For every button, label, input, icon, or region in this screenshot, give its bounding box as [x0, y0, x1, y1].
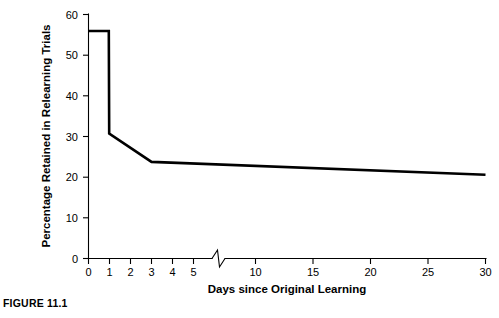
y-tick-label-40: 40 [66, 90, 78, 102]
x-axis-break-icon [212, 250, 225, 267]
x-tick-label-0: 0 [85, 266, 91, 278]
x-tick-label-25: 25 [422, 266, 434, 278]
x-axis-tick-labels: 0 1 2 3 4 5 10 15 20 25 30 [85, 266, 491, 278]
line-chart: 60 50 40 30 20 10 0 0 1 2 3 [0, 0, 499, 318]
figure-caption: FIGURE 11.1 [3, 297, 68, 309]
x-tick-label-3: 3 [148, 266, 154, 278]
y-tick-label-60: 60 [66, 9, 78, 21]
x-tick-label-20: 20 [364, 266, 376, 278]
x-tick-label-15: 15 [307, 266, 319, 278]
data-series-line [89, 31, 486, 175]
y-axis-tick-labels: 60 50 40 30 20 10 0 [66, 9, 78, 265]
figure-container: 60 50 40 30 20 10 0 0 1 2 3 [0, 0, 499, 318]
y-tick-label-30: 30 [66, 131, 78, 143]
y-tick-label-50: 50 [66, 49, 78, 61]
x-tick-label-4: 4 [169, 266, 175, 278]
x-tick-label-1: 1 [106, 266, 112, 278]
x-axis-ticks [89, 259, 486, 265]
x-axis-title: Days since Original Learning [208, 283, 367, 295]
y-axis-ticks [83, 15, 89, 259]
y-tick-label-0: 0 [72, 253, 78, 265]
y-tick-label-10: 10 [66, 212, 78, 224]
x-tick-label-5: 5 [190, 266, 196, 278]
y-tick-label-20: 20 [66, 171, 78, 183]
x-tick-label-2: 2 [127, 266, 133, 278]
x-tick-label-10: 10 [249, 266, 261, 278]
y-axis-title: Percentage Retained in Relearning Trials [40, 24, 52, 247]
x-tick-label-30: 30 [479, 266, 491, 278]
